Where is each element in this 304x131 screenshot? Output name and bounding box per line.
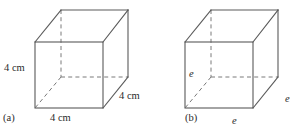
cube-b-bottom-right-diagonal-edge	[253, 77, 278, 108]
cube-a-width-label: 4 cm	[50, 113, 71, 124]
cube-b-part-caption: (b)	[185, 113, 197, 124]
cube-a-part-caption: (a)	[3, 113, 15, 124]
cube-b-top-right-diagonal-edge	[253, 10, 278, 42]
cube-a-height-label: 4 cm	[4, 63, 25, 74]
cube-b-geometry	[185, 10, 278, 108]
cube-a-top-right-diagonal-edge	[103, 10, 128, 42]
cube-b-hidden-bottom-diagonal-edge	[185, 77, 211, 108]
cube-b-width-label: e	[232, 116, 237, 127]
cube-a-visible-edges	[35, 10, 128, 108]
cube-b-top-left-diagonal-edge	[185, 10, 211, 42]
cube-b-front-face	[185, 42, 253, 108]
cube-b-visible-edges	[185, 10, 278, 108]
cube-a-front-face	[35, 42, 103, 108]
cube-a-depth-label: 4 cm	[119, 91, 140, 102]
cube-b-height-label: e	[189, 69, 194, 80]
cubes-figure: 4 cm 4 cm 4 cm (a) e e e (b)	[0, 0, 304, 131]
cube-a-geometry	[35, 10, 128, 108]
cubes-drawing	[0, 0, 304, 131]
cube-b-depth-label: e	[285, 94, 290, 105]
cube-a-top-left-diagonal-edge	[35, 10, 61, 42]
cube-a-hidden-bottom-diagonal-edge	[35, 77, 61, 108]
